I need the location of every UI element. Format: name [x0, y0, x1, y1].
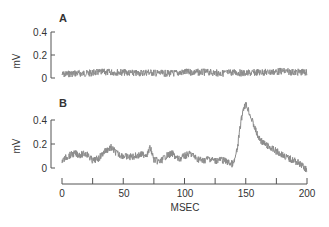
panel-b-ytick-label-0: 0 [41, 163, 47, 174]
panel-a: A mV 0.4 0.2 0 [11, 12, 307, 84]
panel-b-trace [62, 102, 307, 172]
panel-a-ytick-label-0.4: 0.4 [33, 27, 47, 38]
panel-a-label: A [59, 12, 67, 24]
figure: A mV 0.4 0.2 0 B mV 0.4 0.2 0 0 50 100 1… [0, 0, 329, 227]
x-axis-ticks [62, 178, 307, 184]
panel-b-ytick-label-0.4: 0.4 [33, 115, 47, 126]
x-tick-label-200: 200 [299, 188, 316, 199]
x-axis-title: MSEC [171, 202, 200, 213]
panel-a-trace [62, 68, 307, 77]
panel-a-ytick-label-0.2: 0.2 [33, 50, 47, 61]
x-tick-label-100: 100 [177, 188, 194, 199]
panel-a-ylabel: mV [11, 53, 22, 68]
x-axis: 0 50 100 150 200 MSEC [59, 178, 316, 213]
panel-b-label: B [59, 97, 67, 109]
panel-a-ytick-label-0: 0 [41, 73, 47, 84]
panel-b: B mV 0.4 0.2 0 [11, 97, 307, 174]
x-tick-label-50: 50 [118, 188, 130, 199]
panel-b-ytick-label-0.2: 0.2 [33, 139, 47, 150]
x-tick-label-150: 150 [238, 188, 255, 199]
x-tick-label-0: 0 [59, 188, 65, 199]
panel-b-ylabel: mV [11, 138, 22, 153]
